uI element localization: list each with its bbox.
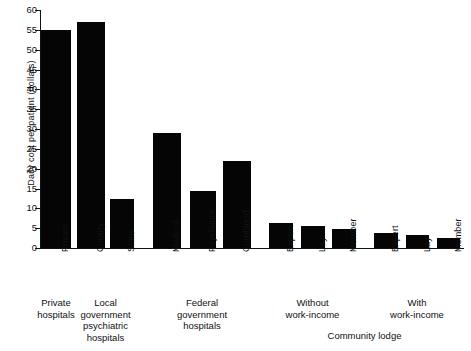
x-tick-label: Expert <box>285 225 295 252</box>
y-tick-label: 40 <box>13 83 37 94</box>
group-label-line: Without <box>253 297 373 309</box>
y-tick-label: 25 <box>13 143 37 154</box>
x-tick-label: County <box>95 223 105 252</box>
y-tick-label: 60 <box>13 4 37 15</box>
group-label: Federalgovernmenthospitals <box>142 297 262 332</box>
group-label-line: hospitals <box>142 320 262 332</box>
x-tick-label: Member <box>348 218 358 252</box>
group-label: Withwork-income <box>357 297 471 320</box>
y-tick-label: 50 <box>13 44 37 55</box>
y-tick: 0 <box>40 248 45 249</box>
group-label-line: With <box>357 297 471 309</box>
y-tick-label: 20 <box>13 163 37 174</box>
super-group-label: Community lodge <box>295 330 435 342</box>
y-tick-label: 15 <box>13 183 37 194</box>
y-tick-label: 30 <box>13 123 37 134</box>
y-tick-label: 35 <box>13 103 37 114</box>
group-label-line: hospitals <box>46 332 166 344</box>
group-label-line: Federal <box>142 297 262 309</box>
bar <box>41 30 71 248</box>
x-tick-label: State <box>126 230 136 252</box>
y-tick: 60 <box>40 10 45 11</box>
y-tick-label: 0 <box>13 242 37 253</box>
group-label-line: work-income <box>253 309 373 321</box>
x-tick-label: Lay <box>317 237 327 252</box>
group-label-line: government <box>142 309 262 321</box>
plot-area: 051015202530354045505560 <box>40 10 464 248</box>
y-tick-label: 10 <box>13 202 37 213</box>
y-tick-label: 5 <box>13 222 37 233</box>
x-tick-label: Psychiatric <box>207 207 217 252</box>
group-label-line: work-income <box>357 309 471 321</box>
x-tick-label: Private <box>60 223 70 252</box>
y-tick-label: 55 <box>13 24 37 35</box>
group-label: Withoutwork-income <box>253 297 373 320</box>
x-tick-label: Medical <box>171 220 181 252</box>
bar-chart: Daily cost per patient (dollars) 0510152… <box>0 0 471 351</box>
x-tick-label: Lay <box>422 237 432 252</box>
bar <box>77 22 105 248</box>
y-tick-label: 45 <box>13 64 37 75</box>
x-tick-label: Member <box>453 218 463 252</box>
x-tick-label: Combined <box>241 210 251 252</box>
x-tick-label: Expert <box>390 225 400 252</box>
